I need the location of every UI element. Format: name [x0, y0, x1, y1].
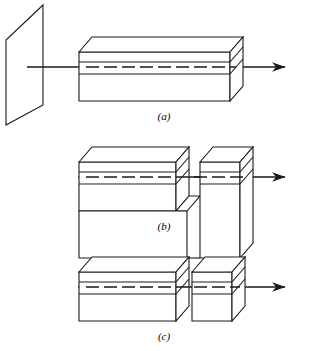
- base-front-face: [79, 211, 187, 258]
- diagram-canvas: [0, 0, 317, 351]
- panel-b: [78, 147, 285, 258]
- left-block-front-face: [79, 162, 176, 211]
- panel-caption-c: (c): [144, 330, 184, 342]
- vertical-plane: [6, 5, 43, 125]
- rectangular-block-front-face: [79, 52, 230, 101]
- right-block-right-face: [240, 147, 253, 258]
- rectangular-block-top-face: [79, 37, 243, 52]
- panel-caption-b: (b): [144, 220, 184, 232]
- left-block-top-face: [79, 257, 189, 272]
- figure-container: (a) (b) (c): [0, 0, 317, 351]
- right-block-front-face: [192, 272, 232, 321]
- left-block-front-face: [79, 272, 176, 321]
- left-block-top-face: [79, 147, 189, 162]
- panel-a: [6, 5, 285, 125]
- panel-c: [78, 257, 285, 321]
- panel-caption-a: (a): [144, 110, 184, 122]
